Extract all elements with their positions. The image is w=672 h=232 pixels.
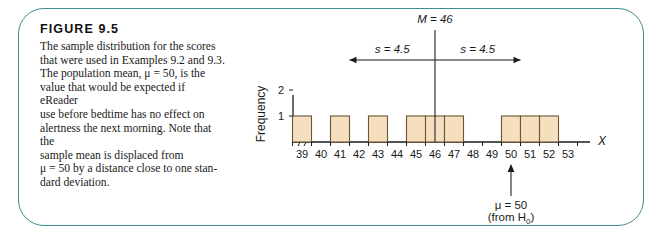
mu-pointer-arrow [508, 164, 515, 196]
bar-group [293, 116, 559, 142]
histogram-figure: 12 394041424344454647484950515253 X Freq… [236, 0, 672, 232]
figure-caption-text: The sample distribution for the scores t… [40, 40, 226, 190]
sd-left-label: s = 4.5 [375, 43, 410, 55]
caption-line: alertness the next morning. Note that th… [40, 122, 226, 149]
x-tick-label: 39 [296, 148, 308, 160]
caption-line: μ = 50 by a distance close to one stan- [40, 162, 226, 176]
mean-label: M = 46 [417, 13, 453, 25]
x-tick-label: 53 [562, 148, 574, 160]
mu-source-prefix: (from H [488, 211, 526, 223]
y-tick-label: 1 [278, 110, 284, 122]
x-tick-label: 47 [448, 148, 460, 160]
x-tick-label: 44 [391, 148, 403, 160]
histogram-bar [445, 116, 464, 142]
caption-line: The sample distribution for the scores [40, 40, 226, 54]
caption-line: use before bedtime has no effect on [40, 108, 226, 122]
mu-source-label: (from H0) [488, 211, 535, 226]
figure-screenshot: FIGURE 9.5 The sample distribution for t… [0, 0, 672, 232]
x-tick-label: 48 [467, 148, 479, 160]
x-axis-tick-labels: 394041424344454647484950515253 [296, 148, 574, 160]
y-axis-ticks: 12 [278, 84, 293, 122]
histogram-bar [540, 116, 559, 142]
figure-number-title: FIGURE 9.5 [40, 22, 226, 36]
caption-line: sample mean is displaced from [40, 149, 226, 163]
y-tick-label: 2 [278, 84, 284, 96]
x-tick-label: 46 [429, 148, 441, 160]
histogram-bar [502, 116, 521, 142]
x-tick-label: 41 [334, 148, 346, 160]
x-tick-label: 51 [524, 148, 536, 160]
y-axis-title: Frequency [254, 86, 268, 143]
caption-line: that were used in Examples 9.2 and 9.3. [40, 54, 226, 68]
histogram-svg: 12 394041424344454647484950515253 X Freq… [236, 0, 672, 232]
mu-source-suffix: ) [530, 211, 534, 223]
frame-left-mask [0, 0, 18, 232]
x-tick-label: 49 [486, 148, 498, 160]
mu-label: μ = 50 [495, 199, 528, 211]
caption-line: value that would be expected if eReader [40, 81, 226, 108]
histogram-bar [369, 116, 388, 142]
caption-line: dard deviation. [40, 176, 226, 190]
figure-caption-block: FIGURE 9.5 The sample distribution for t… [40, 22, 226, 190]
x-tick-label: 50 [505, 148, 517, 160]
x-tick-label: 40 [315, 148, 327, 160]
x-tick-label: 42 [353, 148, 365, 160]
x-axis-title: X [597, 134, 607, 148]
x-tick-label: 43 [372, 148, 384, 160]
histogram-bar [407, 116, 426, 142]
histogram-bar [521, 116, 540, 142]
caption-line: The population mean, μ = 50, is the [40, 67, 226, 81]
sd-right-label: s = 4.5 [460, 43, 495, 55]
x-tick-label: 52 [543, 148, 555, 160]
x-tick-label: 45 [410, 148, 422, 160]
histogram-bar [331, 116, 350, 142]
histogram-bar [293, 116, 312, 142]
